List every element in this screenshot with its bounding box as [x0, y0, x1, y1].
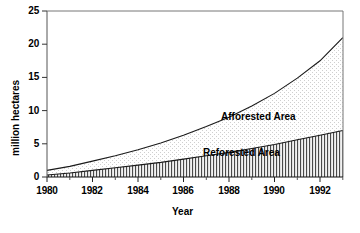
y-tick-label-20: 20 — [18, 38, 39, 49]
x-major-tick-marks — [47, 177, 320, 182]
y-tick-label-25: 25 — [18, 5, 39, 16]
x-tick-label-1980: 1980 — [29, 185, 65, 196]
y-tick-label-5: 5 — [18, 138, 39, 149]
area-chart-plot — [0, 0, 360, 233]
x-tick-label-1982: 1982 — [74, 185, 110, 196]
chart-figure: 25 20 15 10 5 0 1980 1982 1984 1986 1988… — [0, 0, 360, 233]
x-tick-label-1986: 1986 — [165, 185, 201, 196]
x-axis-title: Year — [172, 206, 193, 217]
y-tick-label-15: 15 — [18, 71, 39, 82]
y-tick-label-10: 10 — [18, 105, 39, 116]
reforested-area-label: Reforested Area — [203, 147, 280, 158]
x-tick-label-1992: 1992 — [302, 185, 338, 196]
afforested-area-label: Afforested Area — [221, 111, 296, 122]
y-tick-marks — [42, 11, 47, 177]
x-tick-label-1990: 1990 — [256, 185, 292, 196]
x-tick-label-1988: 1988 — [211, 185, 247, 196]
y-axis-title: million hectares — [10, 80, 21, 156]
y-tick-label-0: 0 — [18, 171, 39, 182]
x-tick-label-1984: 1984 — [120, 185, 156, 196]
